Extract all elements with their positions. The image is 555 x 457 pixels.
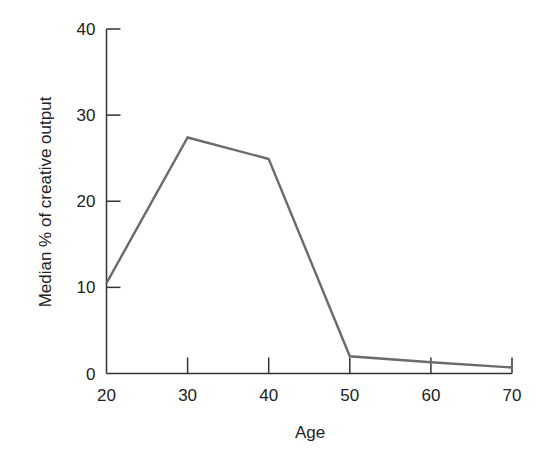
x-tick-label: 30 [178,386,197,405]
x-tick-label: 20 [97,386,116,405]
y-axis-label: Median % of creative output [36,96,55,307]
data-line [107,138,513,368]
x-axis-label: Age [295,423,325,442]
y-tick-label: 40 [77,20,96,39]
x-tick-label: 50 [340,386,359,405]
line-chart: 010203040203040506070 Age Median % of cr… [0,0,555,457]
y-tick-label: 10 [77,278,96,297]
y-tick-label: 20 [77,192,96,211]
x-tick-label: 60 [421,386,440,405]
y-tick-label: 0 [86,365,95,384]
x-tick-label: 70 [503,386,522,405]
axes: 010203040203040506070 [77,20,522,405]
x-tick-label: 40 [259,386,278,405]
y-tick-label: 30 [77,106,96,125]
